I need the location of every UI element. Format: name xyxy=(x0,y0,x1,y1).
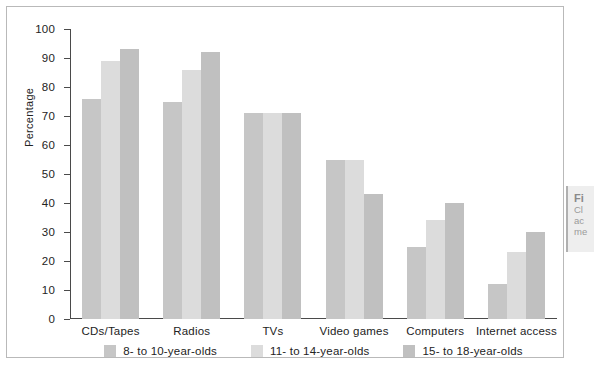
figure-frame: 1009080706050403020100 CDs/TapesRadiosTV… xyxy=(6,6,564,358)
bar xyxy=(201,52,220,319)
y-axis-tick: 0 xyxy=(64,319,70,320)
bar-group xyxy=(407,29,464,319)
legend-swatch xyxy=(403,345,415,357)
y-axis-tick-label: 20 xyxy=(42,253,55,269)
legend-label: 11- to 14-year-olds xyxy=(270,345,369,357)
legend-swatch xyxy=(251,345,263,357)
y-axis-tick-label: 60 xyxy=(42,137,55,153)
y-axis-tick-label: 100 xyxy=(35,21,55,37)
caption-title: Fi xyxy=(574,192,594,204)
bar xyxy=(526,232,545,319)
bar xyxy=(282,113,301,319)
bar xyxy=(263,113,282,319)
bar xyxy=(182,70,201,319)
caption-line: Cl xyxy=(574,204,594,215)
bar xyxy=(120,49,139,319)
legend-item: 8- to 10-year-olds xyxy=(104,345,217,357)
chart-legend: 8- to 10-year-olds11- to 14-year-olds15-… xyxy=(70,343,557,359)
legend-item: 11- to 14-year-olds xyxy=(251,345,369,357)
y-axis-tick-label: 0 xyxy=(48,311,55,327)
bar-group xyxy=(163,29,220,319)
bar xyxy=(163,102,182,320)
bar-group xyxy=(488,29,545,319)
legend-item: 15- to 18-year-olds xyxy=(403,345,522,357)
bar xyxy=(507,252,526,319)
caption-line: me xyxy=(574,226,594,237)
bar xyxy=(244,113,263,319)
caption-lines: Clacme xyxy=(574,204,594,237)
caption-rule xyxy=(566,186,568,252)
y-axis-tick-label: 50 xyxy=(42,166,55,182)
bar xyxy=(364,194,383,319)
caption-line: ac xyxy=(574,215,594,226)
y-axis-tick-label: 80 xyxy=(42,79,55,95)
y-axis-tick-label: 90 xyxy=(42,50,55,66)
bar-group xyxy=(326,29,383,319)
bar xyxy=(426,220,445,319)
y-axis-tick-label: 70 xyxy=(42,108,55,124)
y-axis-tick-label: 40 xyxy=(42,195,55,211)
y-axis-tick-label: 10 xyxy=(42,282,55,298)
bar xyxy=(407,247,426,320)
chart-plot-area: 1009080706050403020100 CDs/TapesRadiosTV… xyxy=(70,29,557,319)
legend-label: 8- to 10-year-olds xyxy=(123,345,217,357)
bar xyxy=(101,61,120,319)
x-axis-category-label: Internet access xyxy=(461,324,571,338)
bar-group xyxy=(244,29,301,319)
bar-group xyxy=(82,29,139,319)
bars-layer xyxy=(70,29,557,319)
y-axis-title: Percentage xyxy=(23,88,35,147)
bar xyxy=(326,160,345,320)
figure-caption-block: Fi Clacme xyxy=(566,186,594,252)
bar xyxy=(345,160,364,320)
bar xyxy=(82,99,101,319)
bar xyxy=(445,203,464,319)
legend-swatch xyxy=(104,345,116,357)
bar xyxy=(488,284,507,319)
y-axis-tick-label: 30 xyxy=(42,224,55,240)
legend-label: 15- to 18-year-olds xyxy=(422,345,522,357)
